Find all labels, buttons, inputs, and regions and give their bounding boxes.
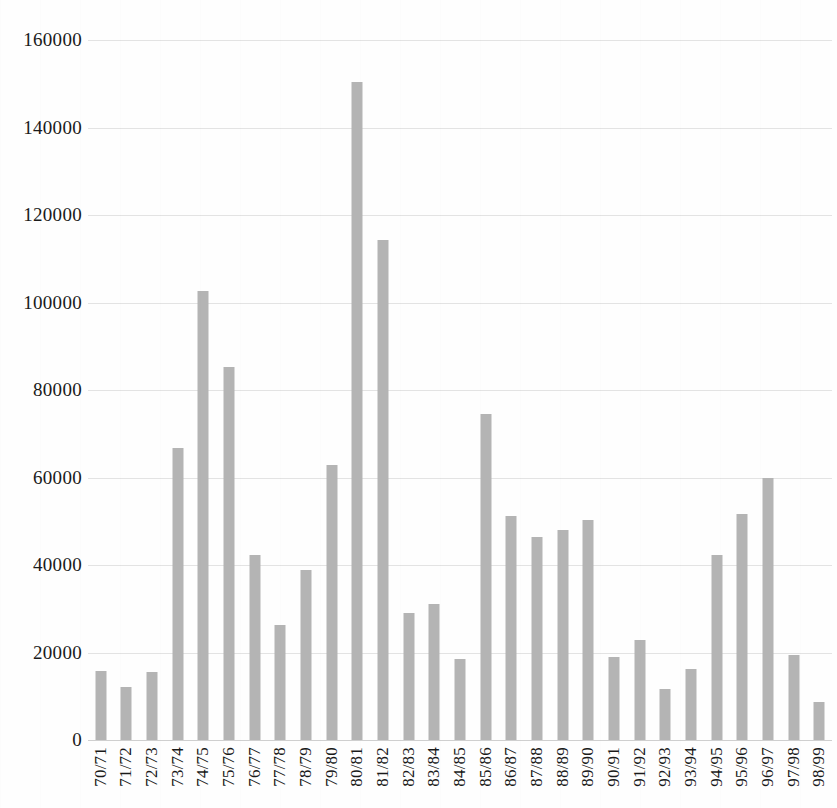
bar[interactable] bbox=[224, 367, 235, 740]
x-axis-tick: 71/72 bbox=[114, 745, 140, 808]
x-axis-tick: 98/99 bbox=[806, 745, 832, 808]
bar-slot bbox=[806, 40, 832, 740]
bar[interactable] bbox=[480, 414, 491, 740]
bar[interactable] bbox=[378, 240, 389, 740]
bar[interactable] bbox=[454, 659, 465, 740]
bar[interactable] bbox=[711, 555, 722, 741]
x-axis-tick-label: 88/89 bbox=[553, 747, 573, 787]
bar-slot bbox=[114, 40, 140, 740]
x-axis-tick: 83/84 bbox=[422, 745, 448, 808]
x-axis-tick: 90/91 bbox=[601, 745, 627, 808]
x-axis-tick: 86/87 bbox=[498, 745, 524, 808]
y-axis-tick-label: 120000 bbox=[23, 204, 82, 226]
bar-slot bbox=[627, 40, 653, 740]
bar[interactable] bbox=[762, 478, 773, 740]
x-axis-tick: 76/77 bbox=[242, 745, 268, 808]
bar[interactable] bbox=[326, 465, 337, 740]
y-axis-tick-label: 60000 bbox=[33, 467, 82, 489]
bar-chart: 1600001400001200001000008000060000400002… bbox=[0, 0, 837, 808]
bar-slot bbox=[601, 40, 627, 740]
bar-slot bbox=[242, 40, 268, 740]
x-axis-tick: 95/96 bbox=[729, 745, 755, 808]
bar[interactable] bbox=[121, 687, 132, 740]
bar-slot bbox=[781, 40, 807, 740]
bar-slot bbox=[139, 40, 165, 740]
bar[interactable] bbox=[198, 291, 209, 740]
bar[interactable] bbox=[608, 657, 619, 740]
x-axis-tick-label: 80/81 bbox=[347, 747, 367, 787]
x-axis-tick-label: 90/91 bbox=[604, 747, 624, 787]
x-axis-tick-label: 87/88 bbox=[527, 747, 547, 787]
x-axis-tick-label: 96/97 bbox=[758, 747, 778, 787]
x-axis-tick: 96/97 bbox=[755, 745, 781, 808]
bar-slot bbox=[88, 40, 114, 740]
y-axis-tick-label: 160000 bbox=[23, 29, 82, 51]
bar[interactable] bbox=[660, 689, 671, 740]
bar[interactable] bbox=[788, 655, 799, 740]
x-axis-tick-label: 94/95 bbox=[707, 747, 727, 787]
x-axis-tick: 93/94 bbox=[678, 745, 704, 808]
bar-slot bbox=[498, 40, 524, 740]
x-axis-tick: 73/74 bbox=[165, 745, 191, 808]
bar[interactable] bbox=[249, 555, 260, 741]
bar[interactable] bbox=[403, 613, 414, 740]
bar[interactable] bbox=[301, 570, 312, 740]
bar[interactable] bbox=[147, 672, 158, 740]
bar[interactable] bbox=[429, 604, 440, 740]
bar[interactable] bbox=[737, 514, 748, 740]
x-axis-tick-label: 97/98 bbox=[784, 747, 804, 787]
x-axis-tick: 91/92 bbox=[627, 745, 653, 808]
x-axis-tick-label: 74/75 bbox=[193, 747, 213, 787]
x-axis-tick-label: 72/73 bbox=[142, 747, 162, 787]
y-axis: 1600001400001200001000008000060000400002… bbox=[0, 0, 88, 808]
x-axis-tick: 97/98 bbox=[781, 745, 807, 808]
x-axis-tick: 82/83 bbox=[396, 745, 422, 808]
bar-slot bbox=[652, 40, 678, 740]
x-axis-tick: 81/82 bbox=[370, 745, 396, 808]
bar[interactable] bbox=[634, 640, 645, 740]
bar[interactable] bbox=[583, 520, 594, 740]
x-axis-tick-label: 77/78 bbox=[270, 747, 290, 787]
x-axis-tick: 88/89 bbox=[550, 745, 576, 808]
y-axis-tick-label: 140000 bbox=[23, 117, 82, 139]
x-axis-tick-label: 75/76 bbox=[219, 747, 239, 787]
x-axis-tick: 85/86 bbox=[473, 745, 499, 808]
x-axis-tick: 75/76 bbox=[216, 745, 242, 808]
bar[interactable] bbox=[531, 537, 542, 740]
bar[interactable] bbox=[557, 530, 568, 740]
bar-slot bbox=[755, 40, 781, 740]
bar-slot bbox=[191, 40, 217, 740]
bar[interactable] bbox=[685, 669, 696, 740]
bar-slot bbox=[319, 40, 345, 740]
x-axis-tick-label: 82/83 bbox=[399, 747, 419, 787]
x-axis-tick: 89/90 bbox=[575, 745, 601, 808]
x-axis-tick: 94/95 bbox=[704, 745, 730, 808]
bar[interactable] bbox=[95, 671, 106, 740]
x-axis-tick: 70/71 bbox=[88, 745, 114, 808]
bar[interactable] bbox=[814, 702, 825, 740]
x-axis-tick-label: 91/92 bbox=[630, 747, 650, 787]
x-axis-tick: 84/85 bbox=[447, 745, 473, 808]
x-axis-tick: 87/88 bbox=[524, 745, 550, 808]
bar-slot bbox=[550, 40, 576, 740]
x-axis-tick: 72/73 bbox=[139, 745, 165, 808]
x-axis-tick-label: 71/72 bbox=[116, 747, 136, 787]
bar[interactable] bbox=[506, 516, 517, 740]
bar-slot bbox=[422, 40, 448, 740]
y-axis-tick-label: 40000 bbox=[33, 554, 82, 576]
x-axis-tick-label: 92/93 bbox=[655, 747, 675, 787]
bar[interactable] bbox=[275, 625, 286, 740]
bar-slot bbox=[704, 40, 730, 740]
x-axis-tick-label: 93/94 bbox=[681, 747, 701, 787]
bar-slot bbox=[473, 40, 499, 740]
x-axis-tick: 77/78 bbox=[268, 745, 294, 808]
x-axis-tick: 92/93 bbox=[652, 745, 678, 808]
bar[interactable] bbox=[352, 82, 363, 740]
bar-slot bbox=[678, 40, 704, 740]
bar[interactable] bbox=[172, 448, 183, 740]
bar-slot bbox=[370, 40, 396, 740]
bar-slot bbox=[729, 40, 755, 740]
x-axis-tick: 78/79 bbox=[293, 745, 319, 808]
x-axis-tick: 74/75 bbox=[191, 745, 217, 808]
x-axis-tick: 79/80 bbox=[319, 745, 345, 808]
